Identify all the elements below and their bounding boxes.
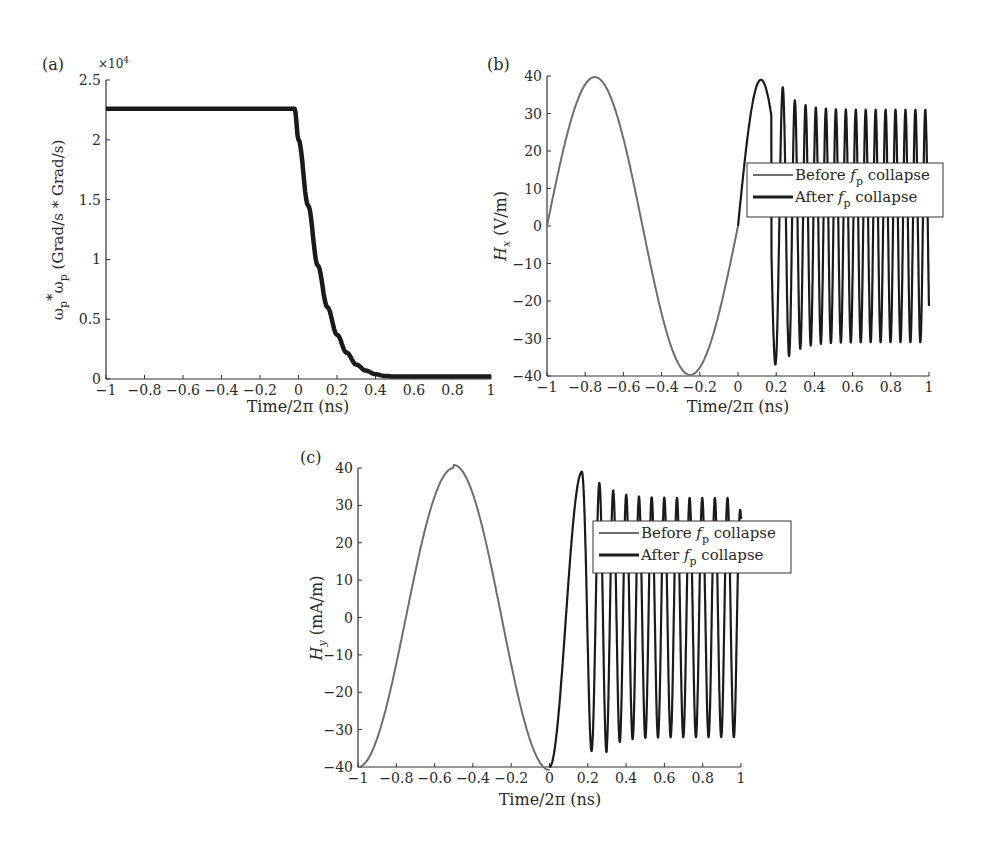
before-collapse-curve xyxy=(358,465,550,770)
x-tick-label: 0.6 xyxy=(403,382,425,398)
y-tick-label: 0 xyxy=(344,610,353,626)
x-tick-label: 0.4 xyxy=(364,382,386,398)
x-tick-label: 0 xyxy=(545,770,554,786)
x-tick-label: −0.2 xyxy=(243,382,277,398)
y-tick-label: 30 xyxy=(524,106,542,122)
x-tick-label: −0.2 xyxy=(683,379,717,395)
x-tick-label: 0.2 xyxy=(577,770,599,786)
panel-c: (c) −1−0.8−0.6−0.4−0.200.20.40.60.81−40−… xyxy=(300,448,791,809)
x-tick-label: 0.8 xyxy=(880,379,902,395)
y-tick-label: 2 xyxy=(92,132,101,148)
x-tick-label: 1 xyxy=(487,382,496,398)
x-tick-label: −0.4 xyxy=(456,770,490,786)
panel-b-axes: −1−0.8−0.6−0.4−0.200.20.40.60.81−40−30−2… xyxy=(512,68,933,395)
y-tick-label: 1 xyxy=(92,251,101,267)
y-tick-label: 2.5 xyxy=(79,72,101,88)
y-tick-label: −20 xyxy=(512,293,542,309)
y-tick-label: −10 xyxy=(323,647,353,663)
y-tick-label: 30 xyxy=(335,497,353,513)
x-tick-label: −0.8 xyxy=(379,770,413,786)
x-tick-label: 1 xyxy=(925,379,934,395)
panel-b: (b) −1−0.8−0.6−0.4−0.200.20.40.60.81−40−… xyxy=(487,55,943,416)
y-tick-label: −30 xyxy=(512,331,542,347)
y-tick-label: 0 xyxy=(533,218,542,234)
y-tick-label: 10 xyxy=(335,572,353,588)
x-tick-label: −0.6 xyxy=(418,770,452,786)
y-tick-label: 40 xyxy=(524,68,542,84)
panel-b-label: (b) xyxy=(487,55,510,74)
x-tick-label: 0.6 xyxy=(653,770,675,786)
after-collapse-curve xyxy=(550,472,742,767)
x-tick-label: 0 xyxy=(294,382,303,398)
y-tick-label: 20 xyxy=(524,143,542,159)
x-tick-label: −0.4 xyxy=(645,379,679,395)
x-tick-label: −0.8 xyxy=(128,382,162,398)
panel-c-ylabel: Hy (mA/m) xyxy=(307,575,329,661)
y-tick-label: 40 xyxy=(335,460,353,476)
x-tick-label: 0 xyxy=(734,379,743,395)
x-tick-label: −0.4 xyxy=(205,382,239,398)
panel-b-curves xyxy=(547,77,929,375)
x-tick-label: −0.6 xyxy=(166,382,200,398)
y-tick-label: −40 xyxy=(512,368,542,384)
y-tick-label: −10 xyxy=(512,256,542,272)
panel-a-axes: −1−0.8−0.6−0.4−0.200.20.40.60.8100.511.5… xyxy=(79,72,496,398)
y-tick-label: −40 xyxy=(323,759,353,775)
y-tick-label: −30 xyxy=(323,722,353,738)
x-tick-label: 0.2 xyxy=(765,379,787,395)
panel-a-multiplier: ×104 xyxy=(98,55,129,71)
y-tick-label: 0 xyxy=(92,371,101,387)
y-tick-label: 10 xyxy=(524,181,542,197)
x-tick-label: 0.4 xyxy=(615,770,637,786)
y-tick-label: −20 xyxy=(323,684,353,700)
y-tick-label: 1.5 xyxy=(79,192,101,208)
x-tick-label: 1 xyxy=(737,770,746,786)
panel-b-legend: Before fp collapseAfter fp collapse xyxy=(747,163,943,217)
x-tick-label: 0.2 xyxy=(326,382,348,398)
panel-c-curves xyxy=(358,465,741,770)
y-tick-label: 20 xyxy=(335,535,353,551)
after-collapse-curve xyxy=(738,80,929,365)
x-tick-label: −0.8 xyxy=(568,379,602,395)
panel-b-ylabel: Hx (V/m) xyxy=(491,191,513,262)
panel-c-xlabel: Time/2π (ns) xyxy=(499,790,602,809)
panel-a-ylabel: ωp*ωp (Grad/s * Grad/s) xyxy=(43,140,70,320)
x-tick-label: 0.8 xyxy=(692,770,714,786)
x-tick-label: −0.2 xyxy=(494,770,528,786)
panel-a-label: (a) xyxy=(42,55,64,74)
panel-c-label: (c) xyxy=(300,448,321,467)
x-tick-label: 0.4 xyxy=(803,379,825,395)
figure: (a) ×104 −1−0.8−0.6−0.4−0.200.20.40.60.8… xyxy=(0,0,986,850)
panel-a-curve xyxy=(106,109,491,377)
panel-a: (a) ×104 −1−0.8−0.6−0.4−0.200.20.40.60.8… xyxy=(42,55,495,416)
y-tick-label: 0.5 xyxy=(79,311,101,327)
x-tick-label: −0.6 xyxy=(606,379,640,395)
panel-a-xlabel: Time/2π (ns) xyxy=(247,397,350,416)
x-tick-label: 0.6 xyxy=(841,379,863,395)
x-tick-label: 0.8 xyxy=(441,382,463,398)
before-collapse-curve xyxy=(547,77,738,375)
panel-b-xlabel: Time/2π (ns) xyxy=(687,397,790,416)
panel-c-legend: Before fp collapseAfter fp collapse xyxy=(593,521,791,573)
omega-p-squared-curve xyxy=(106,109,491,377)
